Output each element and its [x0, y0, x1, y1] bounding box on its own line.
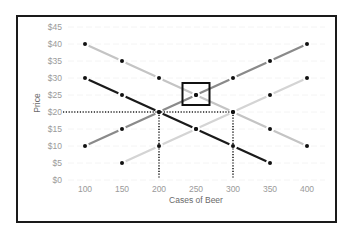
data-point — [120, 161, 124, 165]
y-tick-label: $20 — [48, 107, 62, 117]
data-point — [157, 144, 161, 148]
chart: $0$5$10$15$20$25$30$35$40$45 10015020025… — [0, 0, 354, 234]
data-point — [194, 93, 198, 97]
x-tick-label: 150 — [115, 184, 129, 194]
x-tick-label: 400 — [300, 184, 314, 194]
data-point — [83, 42, 87, 46]
data-point — [268, 59, 272, 63]
x-tick-label: 300 — [226, 184, 240, 194]
data-point — [194, 127, 198, 131]
data-point — [120, 59, 124, 63]
data-point — [268, 161, 272, 165]
x-tick-label: 200 — [152, 184, 166, 194]
x-axis-title: Cases of Beer — [169, 195, 223, 205]
data-point — [268, 93, 272, 97]
x-tick-label: 250 — [189, 184, 203, 194]
y-tick-label: $25 — [48, 90, 62, 100]
data-point — [157, 110, 161, 114]
data-point — [305, 76, 309, 80]
y-tick-label: $10 — [48, 141, 62, 151]
data-point — [120, 93, 124, 97]
y-tick-label: $15 — [48, 124, 62, 134]
x-tick-label: 100 — [78, 184, 92, 194]
data-point — [83, 144, 87, 148]
data-point — [83, 76, 87, 80]
data-point — [231, 110, 235, 114]
data-point — [157, 76, 161, 80]
data-point — [231, 76, 235, 80]
data-point — [268, 127, 272, 131]
y-tick-label: $35 — [48, 56, 62, 66]
data-point — [305, 42, 309, 46]
y-axis-title: Price — [32, 93, 42, 113]
data-point — [120, 127, 124, 131]
y-tick-label: $30 — [48, 73, 62, 83]
y-tick-label: $0 — [53, 175, 63, 185]
x-tick-label: 350 — [263, 184, 277, 194]
data-point — [231, 144, 235, 148]
y-tick-label: $45 — [48, 22, 62, 32]
data-point — [305, 144, 309, 148]
y-tick-label: $5 — [53, 158, 63, 168]
y-tick-label: $40 — [48, 39, 62, 49]
